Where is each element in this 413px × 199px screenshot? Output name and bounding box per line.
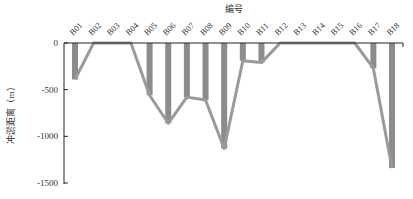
x-tick-label: B08: [198, 20, 215, 37]
trend-line: [75, 43, 392, 168]
x-tick-label: B05: [142, 20, 159, 37]
x-tick-label: B03: [105, 20, 122, 37]
x-tick-label: B15: [328, 20, 345, 37]
x-tick-label: B04: [123, 20, 141, 38]
y-axis: 0-500-1000-1500: [37, 38, 68, 188]
x-tick-label: B12: [272, 20, 289, 37]
y-tick-label: 0: [54, 38, 59, 48]
x-tick-label: B17: [366, 20, 383, 37]
y-tick-label: -1500: [37, 178, 58, 188]
bar: [184, 43, 190, 97]
x-tick-label: B11: [254, 21, 271, 38]
x-axis: B01B02B03B04B05B06B07B08B09B10B11B12B13B…: [64, 20, 403, 47]
y-axis-title: 冲淤距离（m）: [5, 82, 16, 143]
svg-text:冲淤距离（m）: 冲淤距离（m）: [5, 82, 16, 143]
y-tick-label: -1000: [37, 131, 58, 141]
x-tick-label: B16: [347, 20, 364, 37]
x-tick-label: B06: [161, 20, 178, 37]
x-tick-label: B14: [310, 20, 328, 38]
bar: [240, 43, 246, 61]
y-tick-label: -500: [42, 85, 59, 95]
bar: [165, 43, 171, 123]
bar: [203, 43, 209, 100]
x-tick-label: B13: [291, 20, 308, 37]
x-tick-label: B18: [384, 20, 401, 37]
x-tick-label: B01: [67, 20, 84, 37]
x-tick-label: B07: [179, 20, 196, 37]
x-tick-label: B02: [86, 20, 103, 37]
x-tick-label: B09: [217, 20, 234, 37]
x-tick-label: B10: [235, 20, 252, 37]
x-axis-title: 编号: [225, 3, 243, 14]
erosion-distance-chart: 编号 冲淤距离（m） 0-500-1000-1500 B01B02B03B04B…: [0, 0, 413, 199]
